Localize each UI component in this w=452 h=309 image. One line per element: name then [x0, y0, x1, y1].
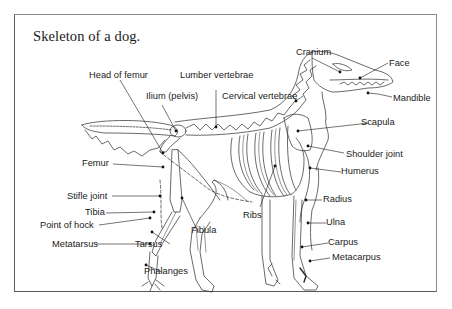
label-ribs: Ribs	[243, 211, 262, 220]
label-femur: Femur	[82, 159, 109, 168]
label-cervical-vertebrae: Cervical vertebrae	[222, 92, 297, 101]
label-phalanges: Phalanges	[144, 267, 188, 276]
label-head-of-femur: Head of femur	[89, 71, 148, 80]
label-fibula: Fibula	[191, 226, 216, 235]
label-radius: Radius	[323, 195, 352, 204]
skull-outline	[312, 51, 393, 92]
label-ulna: Ulna	[326, 218, 345, 227]
label-cranium: Cranium	[296, 48, 331, 57]
label-metacarpus: Metacarpus	[332, 253, 381, 262]
label-lumber-vertebrae: Lumber vertebrae	[180, 71, 253, 80]
tail-outline	[82, 120, 178, 136]
label-metatarsus: Metatarsus	[52, 240, 98, 249]
label-scapula: Scapula	[361, 118, 395, 127]
label-stifle-joint: Stifle joint	[67, 192, 107, 201]
label-face: Face	[389, 59, 410, 68]
label-shoulder-joint: Shoulder joint	[346, 150, 403, 159]
label-tarsus: Tarsus	[135, 240, 162, 249]
label-point-of-hock: Point of hock	[40, 221, 94, 230]
label-carpus: Carpus	[328, 238, 358, 247]
label-humerus: Humerus	[341, 167, 379, 176]
label-mandible: Mandible	[393, 94, 431, 103]
label-ilium-pelvis: Ilium (pelvis)	[146, 92, 198, 101]
body-outline	[175, 52, 312, 122]
label-tibia: Tibia	[85, 208, 105, 217]
